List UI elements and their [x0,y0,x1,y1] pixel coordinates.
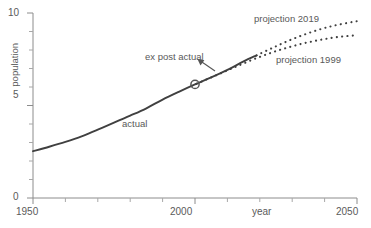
annotation-ex-post-actual: ex post actual [145,52,204,62]
series-projection-2019-line [257,21,357,55]
y-axis-major-ticks [27,13,33,198]
x-axis-label-2050: 2050 [336,207,358,217]
y-axis-label-10: 10 [8,8,19,18]
x-axis-label-1950: 1950 [16,207,38,217]
y-axis-title: population [10,35,20,95]
annotation-actual: actual [122,119,147,129]
annotation-projection-2019: projection 2019 [254,14,319,24]
population-projection-chart: 10 5 0 1950 2000 2050 population year ac… [0,0,371,228]
x-axis-label-2000: 2000 [170,207,192,217]
chart-plot-area [0,0,371,228]
y-axis-label-0: 0 [13,192,19,202]
series-actual-line [33,55,257,151]
annotation-projection-1999: projection 1999 [276,55,341,65]
x-axis-major-ticks [33,198,357,204]
x-axis-title: year [252,207,271,217]
